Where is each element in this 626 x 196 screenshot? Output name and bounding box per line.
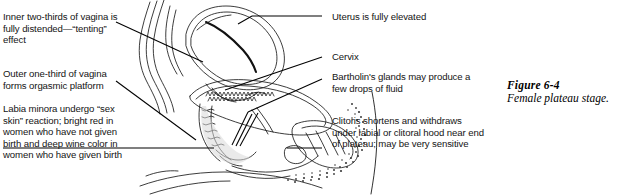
figure-caption-number: Figure 6-4 (507, 79, 625, 92)
annotation-labia-minora: Labia minora undergo “sex skin” reaction… (3, 103, 135, 161)
annotation-inner-vagina: Inner two-thirds of vagina is fully dist… (3, 11, 131, 46)
leader-cervix (225, 57, 322, 90)
leader-uterus-hook (238, 16, 252, 24)
annotation-uterus: Uterus is fully elevated (332, 11, 482, 23)
annotation-outer-vagina: Outer one-third of vagina forms orgasmic… (3, 68, 131, 91)
leader-bartholin (248, 79, 322, 112)
annotation-cervix: Cervix (332, 51, 482, 63)
leader-fan-c (240, 113, 258, 146)
figure-container: Inner two-thirds of vagina is fully dist… (0, 0, 626, 196)
figure-caption-text: Female plateau stage. (507, 92, 625, 105)
leader-fan-a (232, 112, 248, 145)
figure-caption: Figure 6-4 Female plateau stage. (507, 79, 625, 105)
leader-fan-b (236, 114, 252, 146)
annotation-bartholin-glands: Bartholin's glands may produce a few dro… (332, 71, 484, 94)
annotation-clitoris: Clitoris shortens and withdraws under la… (332, 115, 488, 150)
